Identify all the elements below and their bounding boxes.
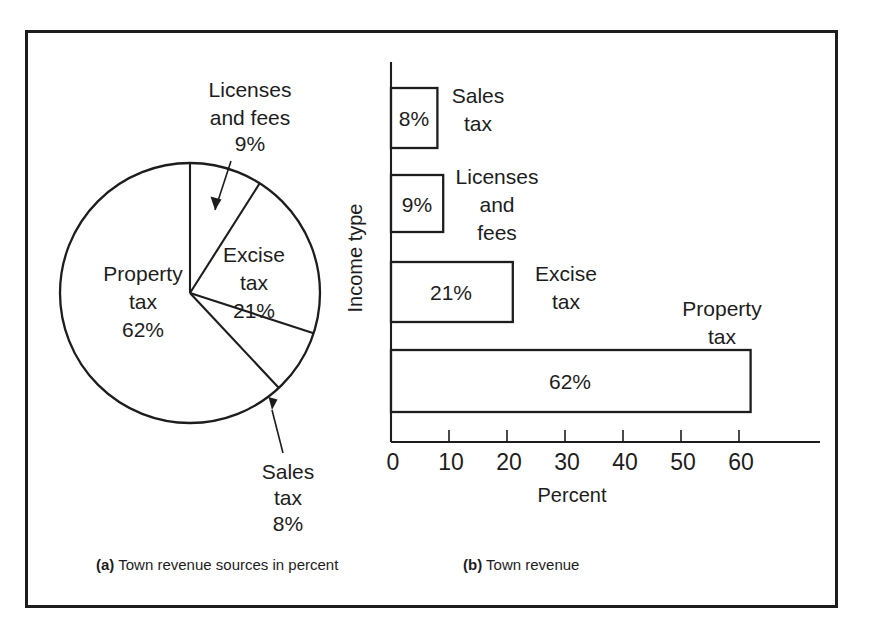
pie-label-sales-line1: Sales <box>262 460 315 483</box>
bar-value-label-licenses-and-fees: 9% <box>402 193 432 216</box>
xtick-label-20: 20 <box>496 449 522 475</box>
pie-label-licenses-line3: 9% <box>235 132 265 155</box>
arrow-up-icon <box>269 397 278 410</box>
xtick-label-40: 40 <box>612 449 638 475</box>
pie-label-sales-line3: 8% <box>273 512 303 535</box>
pie-label-excise-line1: Excise <box>223 243 285 266</box>
bar-category-label-sales-tax-line2: tax <box>464 112 493 135</box>
bar-category-label-licenses-line3: fees <box>477 221 517 244</box>
bar-category-label-licenses-line2: and <box>479 193 514 216</box>
charts-svg-layer: Property tax 62% Excise tax 21% Licenses… <box>0 0 872 635</box>
caption-a-text: Town revenue sources in percent <box>118 556 338 573</box>
pie-label-sales-line2: tax <box>274 486 303 509</box>
pie-callout-sales: Sales tax 8% <box>262 397 315 535</box>
figure-root: Property tax 62% Excise tax 21% Licenses… <box>0 0 872 635</box>
bar-group-sales-tax: 8% Sales tax <box>391 84 504 148</box>
bar-chart-ylabel: Income type <box>344 204 366 313</box>
caption-b-marker: (b) <box>463 556 482 573</box>
pie-label-licenses-line2: and fees <box>210 106 291 129</box>
pie-leader-line-sales <box>272 410 283 453</box>
bar-category-label-property-line1: Property <box>682 297 762 320</box>
caption-a: (a) Town revenue sources in percent <box>96 556 338 573</box>
caption-a-marker: (a) <box>96 556 114 573</box>
xtick-label-0: 0 <box>387 449 400 475</box>
pie-label-property-line1: Property <box>103 262 183 285</box>
caption-b: (b) Town revenue <box>463 556 579 573</box>
caption-b-text: Town revenue <box>486 556 579 573</box>
xtick-label-50: 50 <box>670 449 696 475</box>
xtick-label-30: 30 <box>554 449 580 475</box>
bar-category-label-sales-tax-line1: Sales <box>452 84 505 107</box>
bar-group-excise-tax: 21% Excise tax <box>391 262 597 322</box>
bar-category-label-excise-line1: Excise <box>535 262 597 285</box>
bar-value-label-excise-tax: 21% <box>430 281 472 304</box>
bar-category-label-property-line2: tax <box>708 325 737 348</box>
bar-category-label-licenses-line1: Licenses <box>456 165 539 188</box>
pie-chart: Property tax 62% Excise tax 21% Licenses… <box>60 78 320 535</box>
bar-value-label-property-tax: 62% <box>549 370 591 393</box>
bar-chart-x-ticks <box>391 430 739 442</box>
bar-value-label-sales-tax: 8% <box>399 107 429 130</box>
bar-chart-xlabel: Percent <box>538 484 607 506</box>
pie-label-property-line2: tax <box>129 290 158 313</box>
xtick-label-60: 60 <box>728 449 754 475</box>
pie-label-licenses-line1: Licenses <box>209 78 292 101</box>
bar-chart: 0 10 20 30 40 50 60 Percent Income type … <box>344 62 820 506</box>
xtick-label-10: 10 <box>438 449 464 475</box>
bar-category-label-excise-line2: tax <box>552 290 581 313</box>
pie-label-property-line3: 62% <box>122 318 164 341</box>
bar-group-licenses-and-fees: 9% Licenses and fees <box>391 165 538 244</box>
pie-label-excise-line2: tax <box>240 271 269 294</box>
pie-label-excise-line3: 21% <box>233 299 275 322</box>
